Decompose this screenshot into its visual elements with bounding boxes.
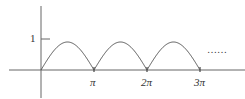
chart-svg: 1 π 2π 3π ……	[0, 0, 245, 99]
x-label-2pi: 2π	[141, 76, 153, 88]
continuation-dots: ……	[207, 44, 227, 55]
y-label-1: 1	[30, 32, 36, 44]
x-label-pi: π	[90, 76, 96, 88]
x-label-3pi: 3π	[193, 76, 206, 88]
abs-sin-curve	[41, 42, 200, 70]
chart: 1 π 2π 3π ……	[0, 0, 245, 99]
